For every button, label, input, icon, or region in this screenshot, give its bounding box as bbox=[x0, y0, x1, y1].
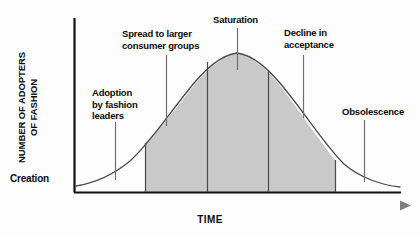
stage-label-obsolescence: Obsolescence bbox=[342, 106, 404, 118]
y-axis-title: NUMBER OF ADOPTERS OF FASHION bbox=[16, 35, 39, 181]
shaded-area bbox=[145, 53, 335, 192]
chart-canvas: NUMBER OF ADOPTERS OF FASHION Creation A… bbox=[0, 0, 420, 234]
stage-label-spread: Spread to larger consumer groups bbox=[122, 28, 199, 51]
time-axis-arrow-head bbox=[400, 201, 411, 211]
x-axis-title: TIME bbox=[0, 214, 420, 226]
stage-label-saturation: Saturation bbox=[213, 14, 258, 26]
creation-label: Creation bbox=[10, 173, 49, 185]
stage-label-decline: Decline in acceptance bbox=[284, 27, 334, 50]
stage-label-adoption: Adoption by fashion leaders bbox=[92, 87, 138, 122]
